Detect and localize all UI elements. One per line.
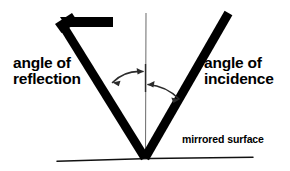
- mirrored-surface-label: mirrored surface: [182, 134, 264, 145]
- reflected-ray: [62, 24, 146, 159]
- mirror-surface-line: [57, 157, 253, 161]
- angle-of-reflection-label: angle ofreflection: [13, 55, 81, 88]
- angle-of-reflection-line2: reflection: [13, 70, 81, 87]
- reflection-arc-arrowhead-right: [137, 68, 144, 75]
- reflection-diagram: angle ofreflection angle ofincidence mir…: [0, 0, 290, 171]
- angle-of-incidence-line2: incidence: [204, 70, 274, 87]
- angle-of-incidence-label: angle ofincidence: [204, 55, 274, 88]
- incidence-arc-arrowhead-left: [148, 81, 155, 88]
- angle-of-reflection-line1: angle of: [13, 54, 71, 71]
- angle-of-incidence-line1: angle of: [204, 54, 262, 71]
